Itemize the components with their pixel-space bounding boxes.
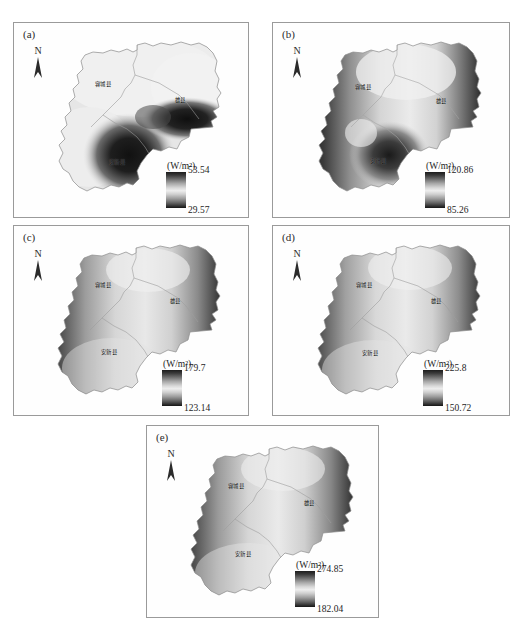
panel-e: (e) N <box>146 425 379 618</box>
panel-label-d: (d) <box>282 231 295 243</box>
legend-colorbar <box>166 172 186 208</box>
county-label-anxin: 安新县 <box>101 348 117 356</box>
north-arrow-label: N <box>163 448 179 459</box>
county-label-anxin: 安新县 <box>109 158 125 166</box>
county-label-rongcheng: 容城县 <box>95 281 111 289</box>
county-label-xiong: 雄县 <box>304 499 315 507</box>
panel-d: (d) N <box>272 225 510 416</box>
panel-c: (c) N <box>13 225 249 416</box>
legend-b: (W/m²) 120.86 85.26 <box>425 161 493 208</box>
county-label-anxin: 安新县 <box>370 157 386 165</box>
legend-colorbar <box>162 370 182 406</box>
north-arrow-icon: N <box>30 45 46 81</box>
county-label-xiong: 雄县 <box>175 96 186 104</box>
county-label-anxin: 安新县 <box>362 349 378 357</box>
north-arrow-label: N <box>289 45 305 56</box>
figure-multi-panel-maps: (a) N <box>0 0 523 630</box>
county-label-rongcheng: 容城县 <box>355 83 371 91</box>
legend-max-value: 225.8 <box>445 363 466 373</box>
north-arrow-label: N <box>30 45 46 56</box>
county-label-xiong: 雄县 <box>436 97 447 105</box>
legend-colorbar <box>425 172 445 208</box>
legend-e: (W/m²) 274.85 182.04 <box>295 560 363 607</box>
panel-label-e: (e) <box>156 431 168 443</box>
legend-colorbar <box>423 370 443 406</box>
panel-b: (b) N <box>272 22 510 218</box>
north-arrow-label: N <box>30 248 46 259</box>
legend-min-value: 150.72 <box>445 403 471 413</box>
county-label-anxin: 安新县 <box>235 550 251 558</box>
panel-label-c: (c) <box>23 231 35 243</box>
panel-label-b: (b) <box>282 28 295 40</box>
legend-max-value: 274.85 <box>317 564 343 574</box>
north-arrow-label: N <box>289 248 305 259</box>
north-arrow-icon: N <box>163 448 179 484</box>
county-label-rongcheng: 容城县 <box>95 80 111 88</box>
north-arrow-icon: N <box>289 45 305 81</box>
north-arrow-icon: N <box>289 248 305 284</box>
legend-max-value: 120.86 <box>447 165 473 175</box>
county-label-xiong: 雄县 <box>431 297 442 305</box>
north-arrow-icon: N <box>30 248 46 284</box>
legend-d: (W/m²) 225.8 150.72 <box>423 359 491 406</box>
legend-min-value: 85.26 <box>447 205 468 215</box>
legend-c: (W/m²) 179.7 123.14 <box>162 359 230 406</box>
legend-max-value: 53.54 <box>188 165 209 175</box>
legend-min-value: 182.04 <box>317 604 343 614</box>
legend-a: (W/m²) 53.54 29.57 <box>166 161 234 208</box>
panel-label-a: (a) <box>23 28 35 40</box>
legend-colorbar <box>295 571 315 607</box>
county-label-rongcheng: 容城县 <box>356 281 372 289</box>
legend-min-value: 29.57 <box>188 205 209 215</box>
legend-min-value: 123.14 <box>184 403 210 413</box>
legend-max-value: 179.7 <box>184 363 205 373</box>
panel-a: (a) N <box>13 22 249 218</box>
county-label-rongcheng: 容城县 <box>228 482 244 490</box>
county-label-xiong: 雄县 <box>170 297 181 305</box>
